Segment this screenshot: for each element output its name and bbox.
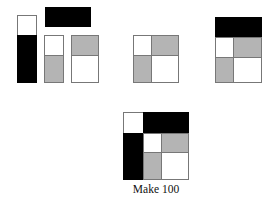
tall-piece-white-top — [17, 15, 37, 36]
assembled-left-black — [123, 133, 144, 180]
sq3-gray-bl — [215, 57, 234, 83]
corner-white — [123, 112, 144, 134]
piece2-gray-bottom — [44, 55, 64, 83]
inner-gray-bl — [143, 152, 162, 180]
sq3-white-br — [233, 57, 262, 83]
sq-gray-bl — [133, 55, 152, 83]
piece2-white-top — [44, 35, 64, 56]
tall-piece-black-bottom — [17, 35, 37, 83]
inner-white-tl — [143, 133, 162, 153]
sq-white-br — [151, 55, 179, 83]
piece3-white-bottom — [71, 55, 99, 83]
sq3-white-tl — [215, 37, 234, 58]
caption: Make 100 — [123, 183, 189, 195]
sq3-gray-tr — [233, 37, 262, 58]
inner-white-br — [161, 152, 189, 180]
sq-gray-tr — [151, 35, 179, 56]
piece3-gray-top — [71, 35, 99, 56]
sq-white-tl — [133, 35, 152, 56]
inner-gray-tr — [161, 133, 189, 153]
assembled-top-black — [143, 112, 189, 134]
black-horizontal-bar — [45, 7, 91, 27]
top-black-bar — [215, 17, 262, 38]
